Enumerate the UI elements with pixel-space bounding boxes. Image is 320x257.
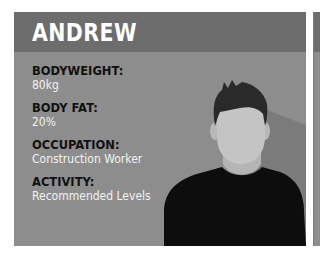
stat-label: OCCUPATION: bbox=[32, 137, 153, 152]
stat-label: BODYWEIGHT: bbox=[32, 63, 153, 78]
stat-value: 80kg bbox=[32, 78, 151, 93]
stat-label: BODY FAT: bbox=[32, 100, 153, 115]
stat-value: Recommended Levels bbox=[32, 189, 151, 204]
shirt bbox=[164, 167, 306, 246]
face bbox=[217, 107, 265, 164]
adjacent-profile-card bbox=[313, 12, 319, 246]
profile-card: ANDREW BODYWEIGHT: 80kg BODY FAT: 20% OC… bbox=[14, 12, 306, 246]
stat-value: 20% bbox=[32, 115, 151, 130]
stat-occupation: OCCUPATION: Construction Worker bbox=[32, 137, 164, 167]
stats-list: BODYWEIGHT: 80kg BODY FAT: 20% OCCUPATIO… bbox=[32, 63, 164, 211]
stat-label: ACTIVITY: bbox=[32, 174, 153, 189]
stat-body-fat: BODY FAT: 20% bbox=[32, 100, 164, 130]
adjacent-card-header bbox=[314, 12, 319, 52]
stat-value: Construction Worker bbox=[32, 152, 151, 167]
stat-activity: ACTIVITY: Recommended Levels bbox=[32, 174, 164, 204]
stat-bodyweight: BODYWEIGHT: 80kg bbox=[32, 63, 164, 93]
